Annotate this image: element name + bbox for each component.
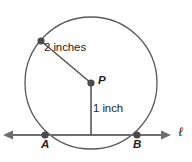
- line-arrow-right-icon: [161, 131, 171, 140]
- center-point-label: P: [98, 75, 106, 87]
- figure-canvas: [0, 0, 192, 162]
- line-arrow-left-icon: [3, 131, 13, 140]
- point-b-label: B: [133, 139, 141, 151]
- radius-measure-label: 2 inches: [44, 42, 86, 54]
- geometry-figure: 2 inches 1 inch P A B ℓ: [0, 0, 192, 162]
- distance-measure-label: 1 inch: [93, 103, 123, 115]
- point-a-label: A: [41, 139, 49, 151]
- center-point-dot: [87, 79, 94, 86]
- line-name-label: ℓ: [178, 125, 183, 138]
